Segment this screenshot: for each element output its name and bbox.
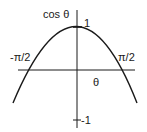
x-neg-label: -π/2 <box>10 51 30 63</box>
y-min-label: -1 <box>81 114 91 126</box>
x-pos-label: π/2 <box>118 51 135 63</box>
cosine-curve <box>13 27 137 104</box>
x-axis-label: θ <box>93 76 99 88</box>
y-axis-label: cos θ <box>43 8 69 20</box>
y-max-label: 1 <box>84 17 90 29</box>
cosine-graph: cos θ 1 -π/2 π/2 θ -1 <box>0 0 147 132</box>
